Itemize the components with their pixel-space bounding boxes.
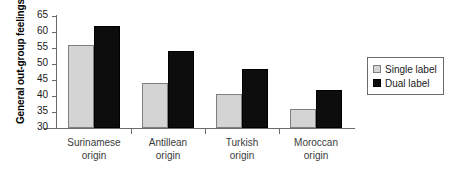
category-label-antillean: Antilleanorigin [131,136,205,162]
category-label-turkish: Turkishorigin [205,136,279,162]
category-label-line: origin [57,149,131,162]
y-tick-mark [52,128,57,129]
legend-label-single: Single label [385,64,437,75]
bar-single-label-surinamese [68,45,94,128]
legend-item-dual-label: Dual label [373,76,437,90]
category-label-line: origin [131,149,205,162]
y-tick-label: 50 [28,57,48,68]
category-label-surinamese: Surinameseorigin [57,136,131,162]
y-tick-mark [52,112,57,113]
y-tick-label: 55 [28,41,48,52]
legend-label-dual: Dual label [385,78,429,89]
bar-dual-label-surinamese [94,26,120,128]
bar-dual-label-antillean [168,51,194,128]
category-label-line: origin [279,149,353,162]
bar-single-label-antillean [142,83,168,128]
category-label-line: Moroccan [279,136,353,149]
bar-chart: General out-group feelings 6560555045403… [0,0,457,173]
y-tick-mark [52,48,57,49]
y-tick-label: 40 [28,89,48,100]
single-label-swatch-icon [373,65,381,73]
category-label-moroccan: Moroccanorigin [279,136,353,162]
y-tick-label: 30 [28,121,48,132]
y-tick-label: 35 [28,105,48,116]
bar-single-label-turkish [216,94,242,128]
x-axis-line [44,128,355,129]
category-label-line: Turkish [205,136,279,149]
y-tick-mark [52,80,57,81]
y-tick-mark [52,16,57,17]
bar-dual-label-turkish [242,69,268,128]
y-tick-label: 65 [28,9,48,20]
y-tick-label: 60 [28,25,48,36]
chart-legend: Single label Dual label [367,57,444,95]
dual-label-swatch-icon [373,79,381,87]
y-tick-mark [52,96,57,97]
y-tick-mark [52,32,57,33]
bar-dual-label-moroccan [316,90,342,128]
x-tick-separator [205,129,206,134]
bar-single-label-moroccan [290,109,316,128]
category-label-line: origin [205,149,279,162]
category-label-line: Antillean [131,136,205,149]
x-tick-separator [131,129,132,134]
y-tick-mark [52,64,57,65]
y-tick-label: 45 [28,73,48,84]
y-axis-title: General out-group feelings [15,0,26,128]
category-label-line: Surinamese [57,136,131,149]
legend-item-single-label: Single label [373,62,437,76]
x-tick-separator [279,129,280,134]
